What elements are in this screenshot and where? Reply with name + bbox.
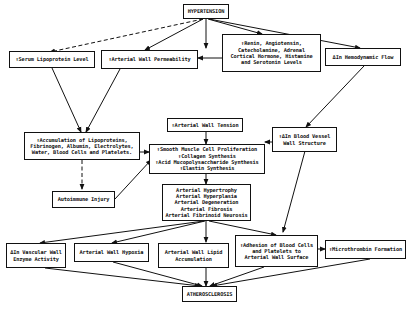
edge-hemodynamic-vesselwall	[306, 66, 364, 127]
edge-hypertension-renin-2	[208, 19, 262, 34]
edge-adhesion-atherosclerosis	[210, 267, 264, 286]
node-arterial-wall-permeability: ↑Arterial Wall Permeability	[101, 50, 198, 69]
node-atherosclerosis: ATHEROSCLEROSIS	[182, 286, 237, 302]
node-accumulation: ↑Accumulation of Lipoproteins, Fibrinoge…	[24, 132, 140, 160]
node-arterial-changes: Arterial Hypertrophy Arterial Hyperplasi…	[162, 184, 251, 221]
edge-serum-accumulation	[52, 68, 81, 132]
edge-hypertension-permeability	[145, 19, 203, 50]
edge-hypertension-serum	[50, 19, 203, 52]
edge-enzyme-atherosclerosis	[45, 268, 200, 286]
node-adhesion: ↑Adhesion of Blood Cells and Platelets t…	[235, 235, 318, 267]
edge-permeability-accumulation	[86, 69, 120, 132]
node-smooth-muscle: ↑Smooth Muscle Cell Proliferation ↑Colla…	[149, 144, 265, 174]
edge-changes-hypoxia	[112, 221, 205, 243]
node-blood-vessel-wall: ↑ΔIn Blood Vessel Wall Structure	[272, 127, 337, 152]
node-arterial-wall-tension: ↑Arterial Wall Tension	[167, 118, 243, 132]
node-arterial-hypoxia: Arterial Wall Hypoxia	[74, 243, 149, 262]
edge-vesselwall-adhesion	[283, 151, 305, 232]
node-renin-levels: ↑Renin, Angiotensin, Catecholamine, Adre…	[222, 34, 321, 72]
node-lipid-accumulation: Arterial Wall Lipid Accumulation	[158, 243, 229, 268]
edge-changes-adhesion	[209, 221, 276, 235]
node-hemodynamic-flow: ΔIn Hemodynamic Flow	[325, 48, 401, 66]
node-vascular-enzyme: ΔIn Vascular Wall Enzyme Activity	[6, 243, 66, 268]
node-microthrombin: ↑Microthrombin Formation	[325, 240, 406, 259]
edge-autoimmune-smoothmuscle	[115, 160, 151, 199]
node-serum-lipoprotein: ↑Serum Lipoprotein Level	[9, 51, 95, 68]
node-autoimmune-injury: Autoimmune Injury	[52, 191, 115, 208]
node-hypertension: HYPERTENSION	[183, 4, 229, 19]
edge-changes-enzyme	[40, 221, 204, 243]
